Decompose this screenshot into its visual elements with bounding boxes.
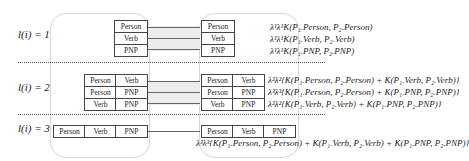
kernel-formula: λ¹λ¹K(P₁.Person, P₂.Person) — [270, 22, 372, 32]
left-cell: PNP — [115, 98, 148, 111]
row-label-1: l(i) = 1 — [18, 28, 50, 40]
row-separator-1 — [18, 62, 325, 63]
right-cell: Verb — [232, 125, 265, 138]
row-separator-2 — [18, 114, 325, 115]
connector-line — [147, 49, 200, 50]
right-cell: PNP — [263, 125, 296, 138]
connector-line — [147, 38, 200, 39]
connection-band-2 — [147, 81, 200, 105]
left-cell: PNP — [115, 125, 148, 138]
connector-line — [147, 81, 200, 82]
right-cell: PNP — [201, 44, 235, 57]
connector-line — [147, 27, 200, 28]
kernel-formula: λ¹λ¹K(P₁.PNP, P₂.PNP) — [270, 46, 354, 56]
right-cell: Verb — [201, 98, 234, 111]
connector-line — [147, 92, 200, 93]
row-label-2: l(i) = 2 — [18, 81, 50, 93]
kernel-formula: λ²λ²{K(P₁.Verb, P₂.Verb) + K(P₁.PNP, P₂.… — [268, 99, 441, 109]
kernel-formula: λ³λ³{K(P₁.Person, P₂.Person) + K(P₁.Verb… — [196, 138, 469, 148]
right-cell: PNP — [232, 98, 265, 111]
right-cell: Person — [201, 125, 234, 138]
left-cell: Verb — [84, 125, 117, 138]
row-label-3: l(i) = 3 — [18, 122, 50, 134]
connector-line — [147, 131, 200, 132]
left-cell: Verb — [84, 98, 117, 111]
kernel-formula: λ¹λ¹K(P₁.Verb, P₂.Verb) — [270, 34, 354, 44]
kernel-formula: λ²λ²{K(P₁.Person, P₂.Person) + K(P₁.Verb… — [268, 75, 459, 85]
left-cell: PNP — [114, 44, 148, 57]
kernel-formula: λ³λ³{K(P₁.Person, P₂.Person) + K(P₁.PNP,… — [268, 87, 459, 97]
left-cell: Person — [53, 125, 86, 138]
connector-line — [147, 103, 200, 104]
